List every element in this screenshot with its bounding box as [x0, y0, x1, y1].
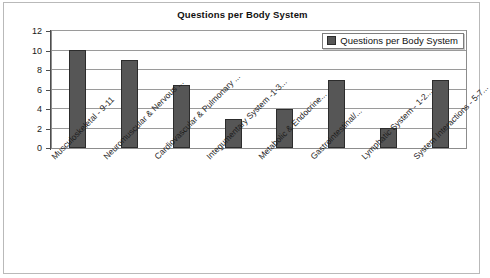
y-tick-2: [46, 129, 51, 130]
legend-swatch-icon: [327, 36, 336, 45]
legend-label: Questions per Body System: [340, 36, 458, 46]
y-tick-10: [46, 51, 51, 52]
bar[interactable]: [276, 109, 293, 148]
y-tick-12: [46, 31, 51, 32]
y-axis-label-0: 0: [8, 144, 42, 153]
y-tick-0: [46, 148, 51, 149]
bar[interactable]: [432, 80, 449, 148]
y-axis-label-6: 6: [8, 86, 42, 95]
bar[interactable]: [121, 60, 138, 148]
y-tick-4: [46, 109, 51, 110]
y-axis-label-2: 2: [8, 125, 42, 134]
chart-frame: Questions per Body System Questions per …: [3, 2, 480, 274]
bar[interactable]: [380, 128, 397, 148]
bar[interactable]: [225, 119, 242, 148]
y-tick-6: [46, 90, 51, 91]
chart-title: Questions per Body System: [4, 9, 481, 20]
bars-layer: [52, 31, 466, 148]
bar[interactable]: [328, 80, 345, 148]
bar[interactable]: [69, 50, 86, 148]
y-axis-label-8: 8: [8, 66, 42, 75]
y-axis-label-12: 12: [8, 27, 42, 36]
chart-legend[interactable]: Questions per Body System: [322, 33, 464, 49]
plot-area: Questions per Body System: [51, 30, 467, 149]
y-tick-8: [46, 70, 51, 71]
y-axis-label-10: 10: [8, 47, 42, 56]
bar[interactable]: [173, 85, 190, 148]
y-axis-label-4: 4: [8, 105, 42, 114]
